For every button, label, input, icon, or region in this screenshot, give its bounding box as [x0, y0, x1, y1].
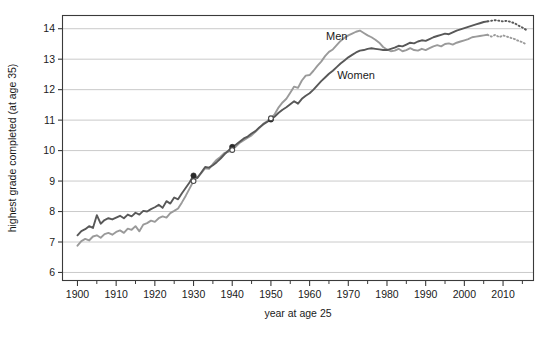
x-tick-label: 1930 [182, 288, 206, 300]
plot-background [62, 15, 534, 281]
y-tick-label: 13 [43, 53, 55, 65]
x-tick-label: 1900 [66, 288, 90, 300]
y-tick-label: 14 [43, 22, 55, 34]
x-tick-label: 1960 [298, 288, 322, 300]
marker-filled-women [191, 173, 196, 178]
x-tick-label: 1940 [221, 288, 245, 300]
x-tick-marks [77, 281, 522, 286]
x-tick-label: 1910 [104, 288, 128, 300]
y-tick-label: 12 [43, 83, 55, 95]
x-tick-label: 1970 [337, 288, 361, 300]
y-axis-title: highest grade completed (at age 35) [6, 64, 18, 233]
y-tick-label: 6 [49, 266, 55, 278]
y-tick-label: 7 [49, 236, 55, 248]
chart-root: 67891011121314 1900191019201930194019501… [0, 0, 554, 337]
x-tick-label: 1950 [259, 288, 283, 300]
x-tick-label: 1980 [375, 288, 399, 300]
x-tick-label: 2000 [453, 288, 477, 300]
x-axis-title: year at age 25 [264, 307, 331, 319]
series-label-men: Men [326, 30, 347, 42]
x-tick-labels: 1900191019201930194019501960197019801990… [66, 288, 515, 300]
x-tick-label: 1920 [143, 288, 167, 300]
x-tick-label: 2010 [491, 288, 515, 300]
y-tick-label: 8 [49, 205, 55, 217]
y-tick-marks [58, 29, 62, 273]
y-tick-labels: 67891011121314 [43, 22, 55, 278]
marker-open-men [191, 179, 196, 184]
education-attainment-line-chart: 67891011121314 1900191019201930194019501… [0, 0, 554, 337]
marker-open-men [230, 148, 235, 153]
y-tick-label: 10 [43, 144, 55, 156]
series-label-women: Women [337, 69, 375, 81]
marker-open-men [269, 116, 274, 121]
y-tick-label: 11 [44, 114, 55, 126]
y-tick-label: 9 [49, 175, 55, 187]
x-tick-label: 1990 [414, 288, 438, 300]
